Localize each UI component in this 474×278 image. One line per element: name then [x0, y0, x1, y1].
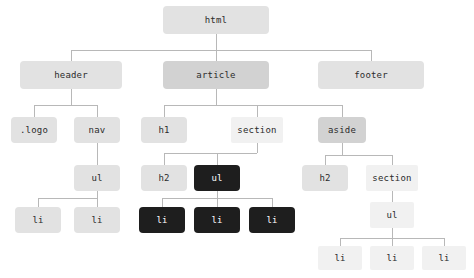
tree-node-label: li [334, 254, 345, 263]
tree-node-label: section [372, 174, 411, 183]
tree-node-label: ul [386, 211, 397, 220]
tree-node-section-b: section [366, 165, 418, 191]
tree-node-label: li [32, 216, 43, 225]
tree-node-li-nav-1: li [15, 207, 61, 233]
tree-node-label: nav [89, 126, 106, 135]
tree-node-label: article [196, 71, 235, 80]
tree-node-li-art-1: li [139, 207, 185, 233]
tree-node-h2-article: h2 [141, 165, 187, 191]
tree-node-label: html [205, 16, 227, 25]
tree-node-label: li [211, 216, 222, 225]
tree-node-li-as-1: li [318, 246, 362, 270]
tree-node-li-art-2: li [194, 207, 240, 233]
dom-tree-diagram: htmlheaderarticlefooter.logonavh1section… [0, 0, 474, 278]
tree-node-ul-nav: ul [74, 165, 120, 191]
tree-node-li-as-3: li [422, 246, 466, 270]
tree-node-nav: nav [74, 117, 120, 143]
tree-node-header: header [20, 61, 122, 89]
tree-node-li-nav-2: li [74, 207, 120, 233]
tree-node-html: html [163, 6, 269, 34]
tree-node-label: li [266, 216, 277, 225]
tree-node-label: li [438, 254, 449, 263]
tree-node-label: li [386, 254, 397, 263]
tree-node-h1: h1 [141, 117, 187, 143]
tree-node-label: header [54, 71, 88, 80]
tree-node-label: h2 [158, 174, 169, 183]
tree-node-label: h2 [319, 174, 330, 183]
tree-node-label: h1 [158, 126, 169, 135]
tree-node-label: li [91, 216, 102, 225]
tree-node-label: .logo [20, 126, 48, 135]
tree-node-ul-aside: ul [370, 202, 414, 228]
tree-node-label: ul [211, 174, 222, 183]
tree-node-article: article [163, 61, 269, 89]
tree-node-label: ul [91, 174, 102, 183]
tree-node-label: footer [354, 71, 388, 80]
tree-node-li-art-3: li [249, 207, 295, 233]
tree-node-h2-aside: h2 [302, 165, 348, 191]
tree-node-section-a: section [231, 117, 283, 143]
tree-node-aside: aside [318, 117, 366, 143]
tree-node-li-as-2: li [370, 246, 414, 270]
tree-node-label: aside [328, 126, 356, 135]
tree-node-label: li [156, 216, 167, 225]
tree-node-ul-section: ul [194, 165, 240, 191]
tree-node-footer: footer [318, 61, 424, 89]
tree-node-label: section [237, 126, 276, 135]
tree-node-logo: .logo [11, 117, 57, 143]
